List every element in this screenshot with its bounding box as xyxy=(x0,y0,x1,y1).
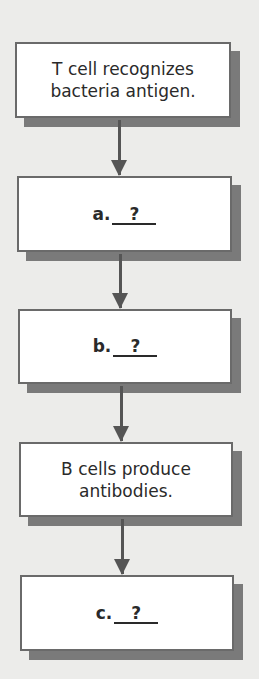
arrow-down-icon xyxy=(119,254,122,308)
step-text-line-1: T cell recognizes xyxy=(50,58,195,80)
step-text: T cell recognizes bacteria antigen. xyxy=(50,58,195,102)
step-text-line-1: B cells produce xyxy=(61,458,191,480)
arrow-down-icon xyxy=(118,120,121,175)
blank-label: c. xyxy=(96,603,113,623)
arrowhead-icon xyxy=(113,426,129,442)
arrowhead-icon xyxy=(112,293,128,309)
flow-step-c-blank: c. ? xyxy=(20,575,234,651)
step-text: B cells produce antibodies. xyxy=(61,458,191,502)
blank-label: a. xyxy=(93,204,111,224)
blank-answer: b. ? xyxy=(93,336,158,357)
blank-answer-line: ? xyxy=(113,337,157,357)
step-text-line-2: bacteria antigen. xyxy=(50,80,195,102)
arrow-down-icon xyxy=(120,386,123,441)
step-text-line-2: antibodies. xyxy=(61,480,191,502)
arrow-down-icon xyxy=(121,519,124,574)
blank-answer: a. ? xyxy=(93,204,157,225)
arrowhead-icon xyxy=(111,160,127,176)
arrowhead-icon xyxy=(114,559,130,575)
flow-step-a-blank: a. ? xyxy=(17,176,232,252)
blank-answer-line: ? xyxy=(114,604,158,624)
flow-step-t-cell-recognizes: T cell recognizes bacteria antigen. xyxy=(15,42,231,118)
blank-answer-line: ? xyxy=(112,205,156,225)
blank-label: b. xyxy=(93,336,112,356)
blank-answer: c. ? xyxy=(96,603,159,624)
flow-step-b-cells-produce: B cells produce antibodies. xyxy=(19,442,233,517)
flow-step-b-blank: b. ? xyxy=(18,309,232,384)
